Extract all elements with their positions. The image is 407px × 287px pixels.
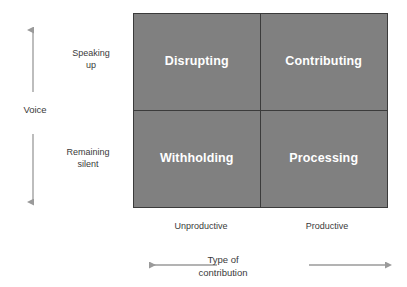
y-axis-label-remaining-silent-line1: Remaining	[66, 147, 109, 157]
quadrant-processing: Processing	[261, 111, 388, 208]
x-axis-title-line1: Type of	[207, 254, 238, 265]
x-axis-title-line2: contribution	[198, 267, 247, 278]
y-axis-label-speaking-up-line1: Speaking	[72, 48, 110, 58]
quadrant-diagram: Voice Speaking up Remaining silent Disru…	[0, 0, 407, 287]
y-axis-label-remaining-silent-line2: silent	[77, 159, 98, 169]
voice-axis-arrow-icon	[22, 22, 44, 210]
y-axis-label-speaking-up-line2: up	[86, 60, 96, 70]
y-axis-label-speaking-up: Speaking up	[53, 47, 129, 71]
x-axis-label-productive: Productive	[267, 221, 387, 231]
x-axis-title: Type of contribution	[173, 254, 273, 280]
y-axis-label-remaining-silent: Remaining silent	[50, 146, 126, 170]
matrix-grid: Disrupting Contributing Withholding Proc…	[133, 13, 388, 208]
x-axis-label-unproductive: Unproductive	[141, 221, 261, 231]
y-axis-title: Voice	[6, 104, 64, 115]
quadrant-contributing: Contributing	[261, 14, 388, 111]
quadrant-disrupting: Disrupting	[134, 14, 261, 111]
quadrant-withholding: Withholding	[134, 111, 261, 208]
